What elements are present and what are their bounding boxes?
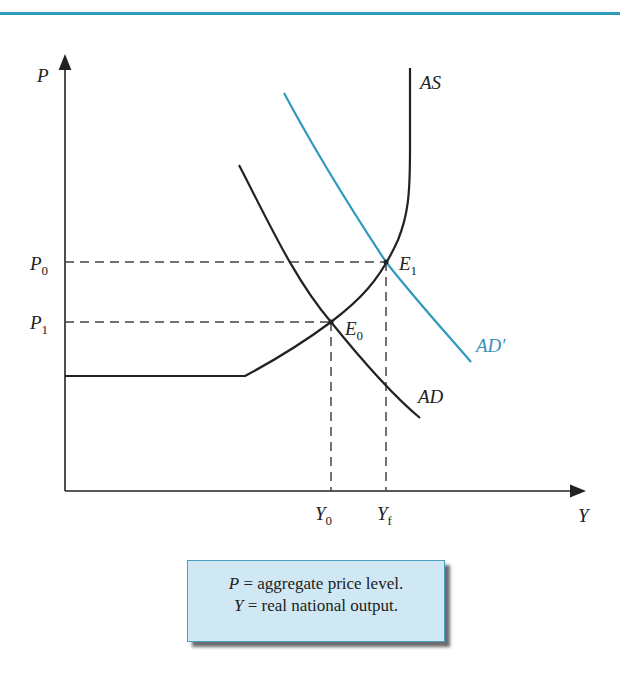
yf-label: Yf [377,503,393,528]
e0-point [329,320,334,325]
e1-label: E1 [398,253,417,278]
y-axis-label: P [36,65,49,86]
x-axis-label: Y [578,505,591,526]
e1-point [384,260,389,265]
legend-text: = aggregate price level. [239,574,403,593]
ad-label: AD [416,386,444,407]
ad-curve [239,165,420,418]
legend-text: = real national output. [243,596,398,615]
legend-box: P = aggregate price level. Y = real nati… [187,560,445,642]
e0-label: E0 [344,318,363,343]
as-label: AS [418,72,442,93]
p1-label: P1 [29,312,48,337]
ad-as-chart: P Y P0 P1 Y0 Yf E0 E1 AS AD AD′ [0,0,620,560]
legend-row-p: P = aggregate price level. [188,573,444,595]
y0-label: Y0 [315,503,332,528]
legend-symbol: P [229,574,239,593]
ad-prime-label: AD′ [474,335,506,356]
legend-row-y: Y = real national output. [188,595,444,617]
p0-label: P0 [29,253,48,278]
